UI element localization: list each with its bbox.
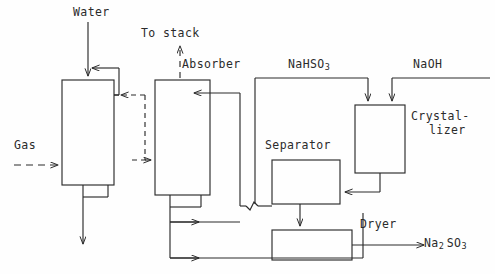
dryer-vessel — [272, 230, 352, 260]
label-gas: Gas — [14, 139, 36, 153]
label-crystallizer-line2: lizer — [415, 124, 466, 138]
label-naoh: NaOH — [413, 58, 442, 72]
separator-vessel — [272, 160, 340, 204]
label-nahso3-subscript: 3 — [325, 62, 330, 72]
label-absorber: Absorber — [182, 58, 241, 72]
label-product-so: SO — [444, 236, 462, 250]
label-product-na: Na — [424, 236, 439, 250]
label-crystallizer-line1: Crystal- — [411, 109, 470, 123]
absorber-tower — [155, 80, 210, 195]
prescrubber-tower — [62, 80, 114, 185]
label-water: Water — [73, 6, 110, 20]
crystallizer-vessel — [355, 105, 405, 173]
label-dryer: Dryer — [360, 218, 397, 232]
label-nahso3-text: NaHSO — [288, 57, 325, 71]
label-separator: Separator — [265, 139, 331, 153]
process-flow-diagram: Water To stack Absorber NaHSO3 NaOH Crys… — [0, 0, 495, 274]
label-product-sub1: 2 — [439, 241, 444, 251]
label-nahso3: NaHSO3 — [288, 58, 330, 72]
label-product: Na2SO3 — [424, 237, 467, 251]
label-product-sub2: 3 — [461, 241, 466, 251]
separator-liquor-jog — [246, 202, 258, 210]
label-to-stack: To stack — [141, 27, 200, 41]
label-crystallizer: Crystal- lizer — [411, 110, 470, 137]
